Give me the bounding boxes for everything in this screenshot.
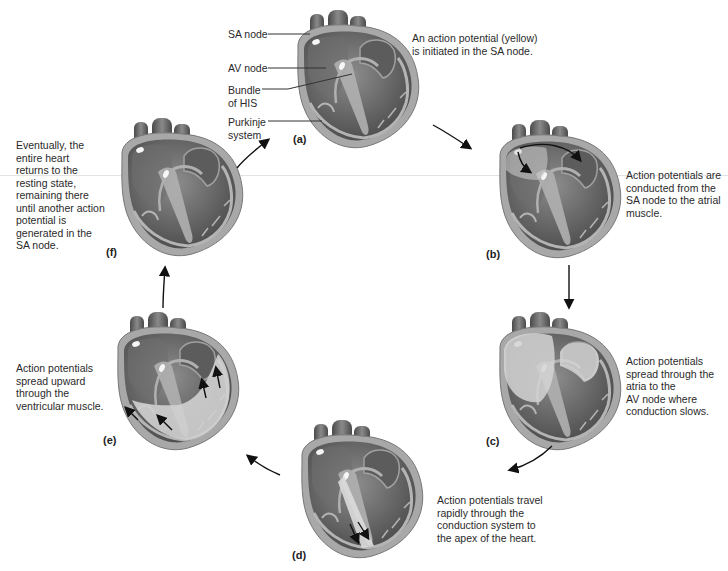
heart-b — [500, 120, 621, 258]
heart-a — [298, 10, 419, 148]
heart-e — [118, 312, 239, 450]
diagram-canvas: SA node AV node Bundle of HIS Purkinje s… — [0, 0, 728, 571]
heart-d — [302, 420, 423, 558]
stage-tag-a: (a) — [293, 133, 306, 145]
caption-e: Action potentials spread upward through … — [16, 362, 104, 412]
heart-illustrations — [0, 0, 728, 571]
label-purkinje-system: Purkinje system — [228, 116, 266, 141]
stage-tag-d: (d) — [292, 549, 306, 561]
stage-tag-b: (b) — [486, 248, 500, 260]
stage-tag-f: (f) — [106, 246, 117, 258]
caption-c: Action potentials spread through the atr… — [626, 355, 714, 418]
caption-f: Eventually, the entire heart returns to … — [16, 139, 105, 252]
label-bundle-of-his: Bundle of HIS — [228, 84, 261, 109]
stage-tag-e: (e) — [103, 434, 116, 446]
caption-b: Action potentials are conducted from the… — [626, 169, 721, 219]
caption-d: Action potentials travel rapidly through… — [437, 494, 543, 544]
stage-tag-c: (c) — [486, 435, 499, 447]
heart-c — [500, 312, 621, 450]
caption-a: An action potential (yellow) is initiate… — [412, 32, 537, 57]
label-sa-node: SA node — [228, 28, 268, 41]
label-av-node: AV node — [228, 62, 268, 75]
heart-f — [122, 118, 243, 256]
